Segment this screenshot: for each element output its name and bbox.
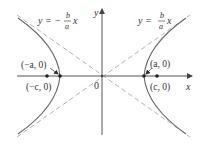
svg-text:x: x xyxy=(166,15,172,26)
svg-text:b: b xyxy=(66,11,70,20)
left-vertex-pointer xyxy=(50,68,58,74)
left-vertex-point xyxy=(58,74,62,78)
asymptote-positive-label: y = b a x xyxy=(137,11,172,31)
svg-text:x: x xyxy=(72,15,78,26)
left-focus-label: (−c, 0) xyxy=(26,82,51,93)
svg-text:y =: y = xyxy=(137,15,152,26)
left-vertex-label: (−a, 0) xyxy=(21,60,46,71)
hyperbola-figure: x y 0 y = − b a x y = b a x (−a, 0) (−c,… xyxy=(0,0,207,148)
right-vertex-point xyxy=(142,74,146,78)
left-focus-point xyxy=(45,74,49,78)
x-axis-label: x xyxy=(185,81,191,92)
right-focus-label: (c, 0) xyxy=(150,82,170,93)
origin-point xyxy=(101,75,103,77)
asymptote-negative-label: y = − b a x xyxy=(37,11,78,31)
right-vertex-label: (a, 0) xyxy=(150,59,170,70)
svg-text:b: b xyxy=(160,11,164,20)
svg-text:a: a xyxy=(65,22,69,31)
svg-text:y = −: y = − xyxy=(37,15,61,26)
svg-text:a: a xyxy=(159,22,163,31)
y-axis-label: y xyxy=(93,7,99,18)
origin-label: 0 xyxy=(94,80,99,91)
right-focus-point xyxy=(155,74,159,78)
